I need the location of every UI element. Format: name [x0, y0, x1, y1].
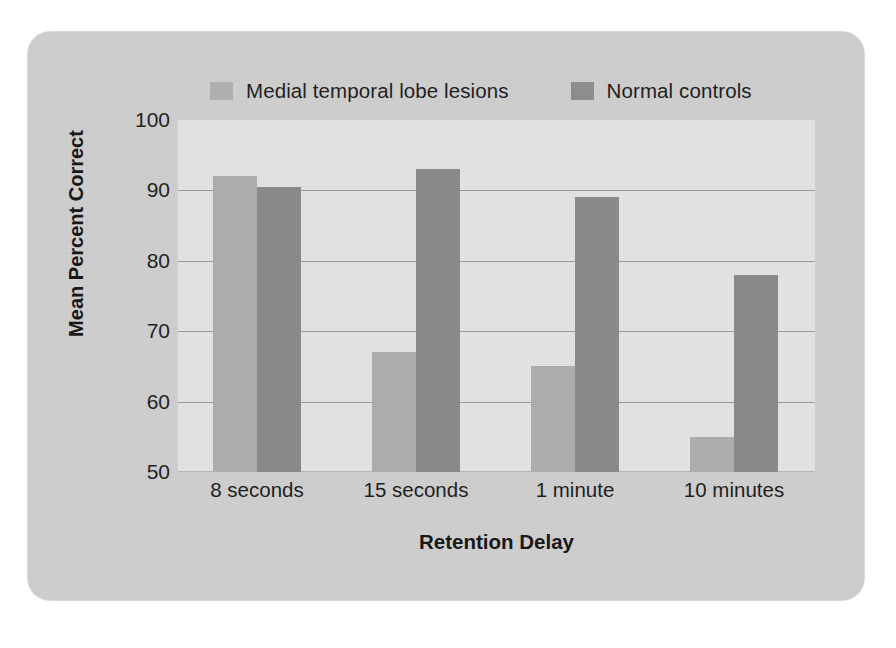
- bar-lesions-1-minute: [531, 366, 575, 472]
- bar-controls-15-seconds: [416, 169, 460, 472]
- page-background: Medial temporal lobe lesions Normal cont…: [0, 0, 896, 648]
- x-axis-tick-labels: 8 seconds 15 seconds 1 minute 10 minutes: [178, 478, 815, 508]
- y-tick-label: 50: [112, 460, 170, 484]
- legend-label-controls: Normal controls: [607, 79, 752, 103]
- x-tick-label: 8 seconds: [210, 478, 303, 502]
- y-tick-label: 90: [112, 178, 170, 202]
- bar-controls-8-seconds: [257, 187, 301, 472]
- x-tick-label: 10 minutes: [684, 478, 784, 502]
- chart-legend: Medial temporal lobe lesions Normal cont…: [210, 77, 830, 105]
- bar-controls-10-minutes: [734, 275, 778, 472]
- legend-swatch-controls: [571, 82, 594, 100]
- legend-entry-lesions: Medial temporal lobe lesions: [210, 79, 509, 103]
- bar-lesions-15-seconds: [372, 352, 416, 472]
- y-axis-title: Mean Percent Correct: [65, 124, 88, 344]
- bar-lesions-8-seconds: [213, 176, 257, 472]
- legend-label-lesions: Medial temporal lobe lesions: [246, 79, 509, 103]
- x-tick-label: 1 minute: [536, 478, 615, 502]
- y-tick-label: 70: [112, 319, 170, 343]
- legend-entry-controls: Normal controls: [571, 79, 752, 103]
- plot-area: [178, 120, 815, 472]
- legend-swatch-lesions: [210, 82, 233, 100]
- bar-lesions-10-minutes: [690, 437, 734, 472]
- y-tick-label: 100: [112, 108, 170, 132]
- figure-card: Medial temporal lobe lesions Normal cont…: [28, 32, 864, 600]
- bar-controls-1-minute: [575, 197, 619, 472]
- x-tick-label: 15 seconds: [364, 478, 469, 502]
- y-tick-label: 80: [112, 249, 170, 273]
- y-tick-label: 60: [112, 390, 170, 414]
- x-axis-title: Retention Delay: [178, 530, 815, 554]
- y-axis-tick-labels: 100 90 80 70 60 50: [106, 120, 170, 472]
